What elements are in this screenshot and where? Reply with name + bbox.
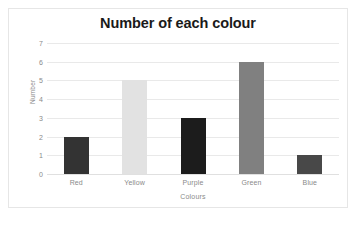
bar-slot (105, 43, 163, 174)
x-axis-tick-label-green: Green (222, 179, 280, 186)
bar-red[interactable] (64, 137, 89, 174)
x-axis-tick-label-blue: Blue (281, 179, 339, 186)
y-axis-tick-label: 2 (27, 133, 43, 140)
y-axis-tick-label: 5 (27, 77, 43, 84)
y-axis-tick-labels: 01234567 (27, 43, 43, 174)
y-axis-tick-label: 4 (27, 96, 43, 103)
x-axis-tick-label-purple: Purple (164, 179, 222, 186)
x-axis-title: Colours (47, 193, 339, 200)
bar-slot (222, 43, 280, 174)
bar-green[interactable] (239, 62, 264, 174)
chart-frame: Number of each colour Number 01234567 Re… (8, 8, 348, 208)
bar-yellow[interactable] (122, 80, 147, 174)
plot-area (47, 43, 339, 174)
bar-blue[interactable] (297, 155, 322, 174)
y-axis-tick-label: 6 (27, 58, 43, 65)
gridline (47, 174, 339, 175)
x-axis-tick-label-red: Red (47, 179, 105, 186)
bar-series (47, 43, 339, 174)
y-axis-tick-label: 0 (27, 171, 43, 178)
bar-slot (281, 43, 339, 174)
y-axis-tick-label: 7 (27, 40, 43, 47)
y-axis-tick-label: 1 (27, 152, 43, 159)
x-axis-tick-label-yellow: Yellow (105, 179, 163, 186)
bar-slot (164, 43, 222, 174)
y-axis-tick-label: 3 (27, 114, 43, 121)
bar-slot (47, 43, 105, 174)
bar-purple[interactable] (181, 118, 206, 174)
x-axis-tick-labels: RedYellowPurpleGreenBlue (47, 179, 339, 186)
chart-title: Number of each colour (9, 15, 347, 31)
